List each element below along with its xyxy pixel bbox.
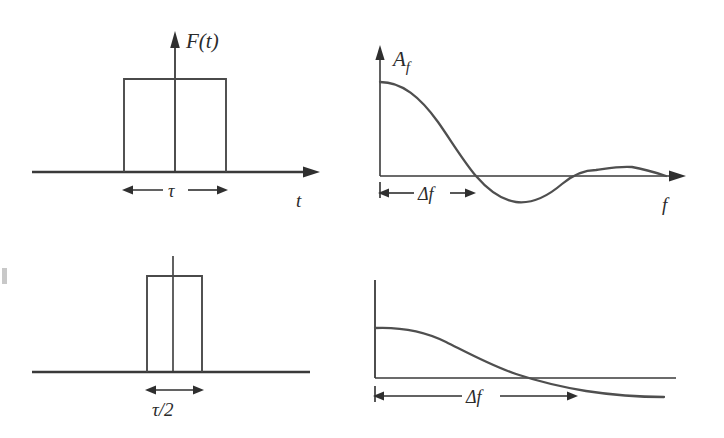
- delta-f-bottom-text: Δf: [465, 387, 485, 407]
- dimension-tau-half-arrowhead-right: [193, 386, 204, 395]
- dimension-delta-f-bottom-label: Δf: [465, 387, 485, 407]
- axis-label-f: f: [662, 194, 670, 215]
- axis-label-ft: F(t): [185, 29, 219, 53]
- delta-f-top-text: Δf: [417, 184, 437, 204]
- dimension-delta-f-top: Δf: [378, 182, 476, 204]
- dimension-tau-half-arrowhead-left: [145, 386, 156, 395]
- axis-label-f-subscript: f: [406, 59, 412, 75]
- time-axis-arrowhead-top: [303, 167, 320, 178]
- panel-top-right: Af f Δf: [375, 45, 686, 215]
- dimension-tau-arrowhead-left: [122, 186, 133, 195]
- frequency-axis-arrowhead-top: [669, 171, 686, 182]
- figure-root: Rectangular pulse and its Fourier amplit…: [0, 0, 724, 438]
- sinc-curve-narrow: [375, 328, 664, 397]
- panel-bottom-left: τ/2: [2, 256, 310, 420]
- panel-bottom-right: Δf: [373, 280, 676, 407]
- rect-pulse-outline-narrow: [147, 276, 202, 372]
- spectrum-axis-arrowhead-top: [375, 45, 384, 60]
- dimension-delta-f-bottom-arrowhead-right: [567, 392, 578, 401]
- axis-label-t: t: [296, 190, 302, 211]
- dimension-tau-arrowhead-right: [217, 186, 228, 195]
- dimension-tau-half-label: τ/2: [152, 399, 174, 420]
- dimension-tau-label: τ: [168, 181, 175, 201]
- edge-artifact-mark: [2, 268, 7, 284]
- amplitude-axis-arrowhead-top: [170, 31, 180, 48]
- dimension-tau-half: τ/2: [145, 386, 204, 421]
- axis-label-a-subscript-f: Af: [391, 47, 412, 75]
- dimension-delta-f-top-label: Δf: [417, 184, 437, 204]
- panel-top-left: F(t) t τ: [32, 29, 320, 211]
- dimension-tau: τ: [122, 181, 228, 201]
- dimension-delta-f-top-arrowhead-right: [465, 189, 476, 198]
- dimension-delta-f-bottom: Δf: [373, 386, 578, 407]
- axis-label-a: A: [391, 47, 406, 71]
- fourier-pulse-figure: Rectangular pulse and its Fourier amplit…: [0, 0, 724, 438]
